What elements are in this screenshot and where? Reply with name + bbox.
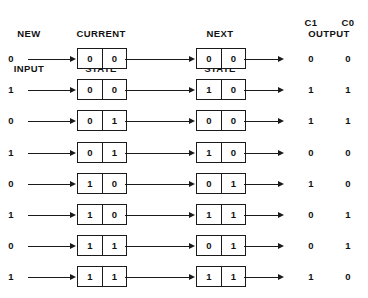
- next-to-output-arrow-line: [244, 215, 282, 216]
- current-state-bit-high: 0: [78, 143, 102, 162]
- column-header-output-c0: C0: [338, 17, 358, 28]
- table-row: 0110101: [0, 231, 368, 262]
- current-to-next-arrow-line: [125, 59, 193, 60]
- output-c1-value: 1: [301, 178, 321, 189]
- column-header-next-state-line1: NEXT: [182, 28, 258, 40]
- current-state-bit-low: 1: [102, 143, 126, 162]
- next-to-output-arrow-head: [278, 118, 284, 124]
- new-input-value: 1: [2, 147, 20, 158]
- output-c1-value: 1: [301, 115, 321, 126]
- next-state-bit-low: 1: [221, 236, 245, 255]
- current-to-next-arrow-head: [189, 56, 195, 62]
- current-to-next-arrow-line: [125, 153, 193, 154]
- output-c1-value: 1: [301, 84, 321, 95]
- next-to-output-arrow-head: [278, 56, 284, 62]
- next-to-output-arrow-line: [244, 246, 282, 247]
- input-to-current-arrow-head: [70, 212, 76, 218]
- current-to-next-arrow-head: [189, 181, 195, 187]
- current-state-box: 11: [77, 266, 127, 287]
- new-input-value: 0: [2, 240, 20, 251]
- output-c1-value: 0: [301, 240, 321, 251]
- current-to-next-arrow-line: [125, 184, 193, 185]
- new-input-value: 1: [2, 271, 20, 282]
- next-to-output-arrow-head: [278, 181, 284, 187]
- next-state-bit-high: 0: [197, 236, 221, 255]
- current-to-next-arrow-line: [125, 215, 193, 216]
- column-header-new-input-line1: NEW: [0, 28, 58, 40]
- current-state-bit-low: 1: [102, 236, 126, 255]
- next-state-box: 11: [196, 266, 246, 287]
- new-input-value: 1: [2, 209, 20, 220]
- output-c1-value: 1: [301, 271, 321, 282]
- input-to-current-arrow-line: [28, 153, 74, 154]
- next-state-box: 01: [196, 235, 246, 256]
- current-state-box: 00: [77, 79, 127, 100]
- next-to-output-arrow-head: [278, 243, 284, 249]
- current-state-bit-high: 0: [78, 111, 102, 130]
- current-state-box: 01: [77, 142, 127, 163]
- current-state-bit-high: 1: [78, 174, 102, 193]
- next-to-output-arrow-head: [278, 150, 284, 156]
- input-to-current-arrow-line: [28, 184, 74, 185]
- next-state-bit-high: 1: [197, 205, 221, 224]
- table-row: 0000000: [0, 44, 368, 75]
- next-to-output-arrow-head: [278, 274, 284, 280]
- input-to-current-arrow-head: [70, 56, 76, 62]
- next-state-box: 01: [196, 173, 246, 194]
- current-state-bit-high: 1: [78, 267, 102, 286]
- next-to-output-arrow-head: [278, 212, 284, 218]
- input-to-current-arrow-line: [28, 59, 74, 60]
- current-state-box: 10: [77, 204, 127, 225]
- next-state-box: 11: [196, 204, 246, 225]
- output-c0-value: 0: [338, 271, 358, 282]
- new-input-value: 1: [2, 84, 20, 95]
- next-state-box: 00: [196, 48, 246, 69]
- output-c1-value: 0: [301, 209, 321, 220]
- table-row: 0100110: [0, 169, 368, 200]
- next-state-bit-low: 0: [221, 143, 245, 162]
- next-to-output-arrow-head: [278, 87, 284, 93]
- current-to-next-arrow-head: [189, 274, 195, 280]
- current-to-next-arrow-head: [189, 118, 195, 124]
- column-header-output-c1: C1: [301, 17, 321, 28]
- column-header-current-state-line1: CURRENT: [62, 28, 140, 40]
- table-row: 1111110: [0, 262, 368, 293]
- output-c0-value: 1: [338, 115, 358, 126]
- current-to-next-arrow-head: [189, 212, 195, 218]
- next-state-bit-high: 1: [197, 143, 221, 162]
- next-state-box: 00: [196, 110, 246, 131]
- output-c1-value: 0: [301, 147, 321, 158]
- output-c0-value: 0: [338, 53, 358, 64]
- current-state-bit-high: 0: [78, 49, 102, 68]
- column-header-output-label: OUTPUT: [292, 28, 366, 40]
- current-state-bit-low: 1: [102, 267, 126, 286]
- table-row: 0010011: [0, 106, 368, 137]
- current-state-bit-low: 0: [102, 174, 126, 193]
- current-to-next-arrow-line: [125, 277, 193, 278]
- output-c0-value: 0: [338, 147, 358, 158]
- current-state-bit-low: 0: [102, 80, 126, 99]
- table-row: 1101101: [0, 200, 368, 231]
- input-to-current-arrow-head: [70, 274, 76, 280]
- current-state-bit-low: 1: [102, 111, 126, 130]
- current-to-next-arrow-head: [189, 150, 195, 156]
- next-state-bit-low: 1: [221, 267, 245, 286]
- input-to-current-arrow-line: [28, 277, 74, 278]
- input-to-current-arrow-head: [70, 118, 76, 124]
- next-to-output-arrow-line: [244, 90, 282, 91]
- current-to-next-arrow-head: [189, 87, 195, 93]
- next-to-output-arrow-line: [244, 59, 282, 60]
- input-to-current-arrow-line: [28, 246, 74, 247]
- next-state-bit-high: 1: [197, 80, 221, 99]
- next-state-bit-low: 0: [221, 80, 245, 99]
- input-to-current-arrow-head: [70, 150, 76, 156]
- new-input-value: 0: [2, 53, 20, 64]
- next-state-bit-low: 1: [221, 174, 245, 193]
- current-state-box: 11: [77, 235, 127, 256]
- next-state-bit-high: 0: [197, 49, 221, 68]
- input-to-current-arrow-head: [70, 181, 76, 187]
- current-state-box: 00: [77, 48, 127, 69]
- next-state-bit-high: 1: [197, 267, 221, 286]
- input-to-current-arrow-line: [28, 215, 74, 216]
- current-to-next-arrow-line: [125, 121, 193, 122]
